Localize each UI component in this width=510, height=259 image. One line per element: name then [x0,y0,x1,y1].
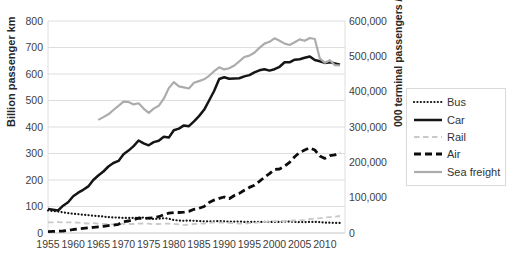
legend-item-car: Car [413,114,505,126]
legend-label-sea-freight: Sea freight [447,166,500,178]
right-tick-label: 600,000 [349,16,387,27]
left-tick-label: 400 [3,122,43,133]
right-tick-label: 200,000 [349,157,387,168]
legend-sea-freight-line-sample [413,167,443,177]
right-tick-label: 300,000 [349,122,387,133]
legend-car-line-sample [413,115,443,125]
legend-item-air: Air [413,148,505,160]
legend-item-rail: Rail [413,131,505,143]
right-tick-label: 100,000 [349,192,387,203]
left-tick-label: 300 [3,148,43,159]
legend: BusCarRailAirSea freight [406,88,506,186]
legend-bus-line-sample [413,97,443,107]
left-tick-label: 600 [3,69,43,80]
legend-air-line-sample [413,149,443,159]
left-tick-label: 0 [3,228,43,239]
legend-label-air: Air [447,148,460,160]
x-tick-label: 2010 [308,239,342,250]
right-tick-label: 0 [349,228,355,239]
chart-area: Billion passenger km 000 terminal passen… [0,0,510,259]
left-tick-label: 700 [3,42,43,53]
left-tick-label: 200 [3,175,43,186]
series-line-bus [48,211,340,223]
right-tick-label: 400,000 [349,86,387,97]
legend-item-sea-freight: Sea freight [413,166,505,178]
legend-label-bus: Bus [447,96,466,108]
legend-item-bus: Bus [413,96,505,108]
left-tick-label: 800 [3,16,43,27]
left-tick-label: 500 [3,95,43,106]
series-line-car [48,57,340,211]
series-line-air [48,148,340,232]
right-tick-label: 500,000 [349,51,387,62]
legend-label-car: Car [447,114,465,126]
legend-label-rail: Rail [447,131,466,143]
legend-rail-line-sample [413,132,443,142]
left-tick-label: 100 [3,201,43,212]
